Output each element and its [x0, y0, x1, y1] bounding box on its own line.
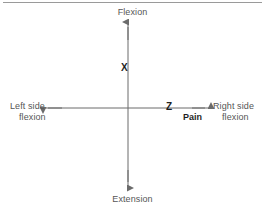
axis-label-extension: Extension: [0, 194, 265, 205]
axis-label-right-side-flexion: Right side flexion: [213, 101, 254, 123]
axis-label-flexion: Flexion: [0, 7, 265, 18]
left-side-line2: flexion: [10, 112, 46, 123]
marker-label-x: X: [121, 62, 128, 73]
marker-label-z: Z: [166, 101, 172, 112]
marker-label-pain: Pain: [183, 112, 202, 123]
right-side-line2: flexion: [213, 112, 254, 123]
axis-label-left-side-flexion: Left side flexion: [10, 101, 46, 123]
diagram-canvas: Flexion Extension Left side flexion Righ…: [0, 0, 265, 213]
right-side-line1: Right side: [213, 101, 254, 111]
left-side-line1: Left side: [10, 101, 45, 111]
